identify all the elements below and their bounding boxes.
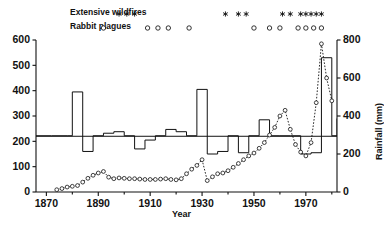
rainfall-data-point <box>133 177 137 181</box>
rabbit-plague-event-marker <box>267 26 271 30</box>
x-tick-label: 1870 <box>35 197 59 209</box>
rainfall-data-point <box>273 126 277 130</box>
rainfall-data-point <box>143 178 147 182</box>
y-tick-label-right: 0 <box>343 185 349 197</box>
wildfire-event-marker <box>288 11 293 16</box>
rainfall-data-point <box>262 141 266 145</box>
rainfall-data-point <box>247 154 251 158</box>
y-tick-label-right: 800 <box>343 33 361 45</box>
rainfall-data-point <box>128 177 132 181</box>
rainfall-data-point <box>179 177 183 181</box>
rainfall-data-point <box>70 184 74 188</box>
rainfall-data-point <box>200 158 204 162</box>
rainfall-data-point <box>153 178 157 182</box>
rainfall-data-point <box>60 187 64 191</box>
rainfall-data-point <box>148 178 152 182</box>
rainfall-data-point <box>55 188 59 192</box>
rainfall-data-point <box>211 175 215 179</box>
rainfall-data-point <box>112 177 116 181</box>
rainfall-data-point <box>164 177 168 181</box>
rabbit-plague-event-marker <box>166 26 170 30</box>
y-tick-label-left: 100 <box>12 160 30 172</box>
x-tick-label: 1930 <box>190 197 214 209</box>
rainfall-data-point <box>314 101 318 105</box>
rainfall-data-point <box>268 133 272 137</box>
rainfall-data-point <box>195 164 199 168</box>
y-tick-label-right: 400 <box>343 109 361 121</box>
rainfall-data-point <box>216 172 220 176</box>
wildfire-event-marker <box>298 11 303 16</box>
rainfall-data-point <box>205 179 209 183</box>
rainfall-data-point <box>190 167 194 171</box>
rabbit-plague-event-marker <box>304 26 308 30</box>
wildfire-event-marker <box>132 11 137 16</box>
rainfall-data-point <box>76 184 80 188</box>
rainfall-data-point <box>169 178 173 182</box>
rabbit-plague-event-marker <box>145 26 149 30</box>
wildfire-event-marker <box>303 11 308 16</box>
rainfall-data-point <box>242 158 246 162</box>
rainfall-data-point <box>107 175 111 179</box>
rainfall-data-point <box>81 180 85 184</box>
y-tick-label-left: 300 <box>12 109 30 121</box>
rainfall-data-point <box>226 169 230 173</box>
rainfall-data-point <box>159 177 163 181</box>
y-tick-label-right: 200 <box>343 147 361 159</box>
rainfall-data-point <box>294 143 298 147</box>
rabbit-plague-event-marker <box>187 26 191 30</box>
wildfire-event-marker <box>309 11 314 16</box>
x-tick-label: 1910 <box>138 197 162 209</box>
wildfire-event-marker <box>236 11 241 16</box>
wildfire-event-marker <box>124 11 129 16</box>
rainfall-data-point <box>283 108 287 112</box>
y-tick-label-left: 500 <box>12 59 30 71</box>
rainfall-data-point <box>325 76 329 80</box>
rainfall-data-point <box>320 42 324 46</box>
rabbit-plague-event-marker <box>156 26 160 30</box>
rainfall-series-line <box>57 44 332 190</box>
wildfire-event-marker <box>117 11 122 16</box>
rabbit-plague-event-marker <box>311 26 315 30</box>
rainfall-data-point <box>288 127 292 131</box>
rainfall-data-point <box>278 114 282 118</box>
rainfall-data-point <box>138 177 142 181</box>
step-series-line <box>36 58 337 154</box>
rainfall-data-point <box>86 176 90 180</box>
wildfire-event-marker <box>280 11 285 16</box>
x-tick-label: 1970 <box>294 197 318 209</box>
rainfall-data-point <box>309 141 313 145</box>
rainfall-data-point <box>96 171 100 175</box>
rainfall-data-point <box>122 176 126 180</box>
rabbit-plague-event-marker <box>252 26 256 30</box>
rabbit-plague-event-marker <box>101 26 105 30</box>
rainfall-data-point <box>91 173 95 177</box>
y-tick-label-right: 600 <box>343 71 361 83</box>
wildfire-event-marker <box>223 11 228 16</box>
rainfall-data-point <box>65 185 69 189</box>
rainfall-data-point <box>236 162 240 166</box>
rabbit-plague-event-marker <box>319 26 323 30</box>
rainfall-data-point <box>231 165 235 169</box>
rainfall-data-point <box>221 171 225 175</box>
wildfire-event-marker <box>244 11 249 16</box>
y-tick-label-left: 600 <box>12 33 30 45</box>
rainfall-data-point <box>174 178 178 182</box>
y-tick-label-left: 400 <box>12 84 30 96</box>
wildfire-event-marker <box>314 11 319 16</box>
rabbit-plague-event-marker <box>278 26 282 30</box>
rainfall-data-point <box>185 172 189 176</box>
wildfire-event-marker <box>319 11 324 16</box>
rainfall-data-point <box>330 99 334 103</box>
rainfall-data-point <box>257 146 261 150</box>
rainfall-data-point <box>102 170 106 174</box>
rainfall-data-point <box>299 150 303 154</box>
y-tick-label-left: 0 <box>24 185 30 197</box>
x-tick-label: 1950 <box>242 197 266 209</box>
rainfall-data-point <box>252 151 256 155</box>
rabbit-plague-event-marker <box>296 26 300 30</box>
rainfall-data-point <box>304 154 308 158</box>
y-tick-label-left: 200 <box>12 135 30 147</box>
x-tick-label: 1890 <box>87 197 111 209</box>
